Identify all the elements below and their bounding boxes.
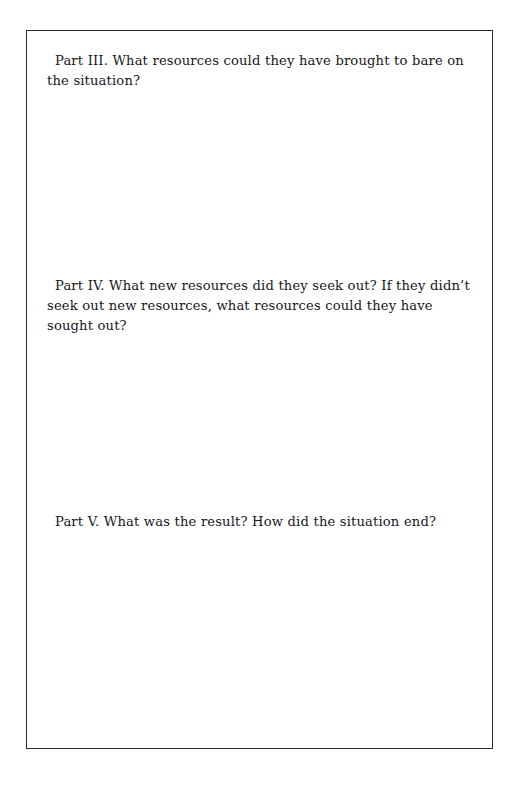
question-part-iv: Part IV. What new resources did they see… [47, 276, 473, 336]
question-part-iii: Part III. What resources could they have… [47, 51, 473, 91]
question-part-v: Part V. What was the result? How did the… [47, 512, 473, 532]
page-frame: Part III. What resources could they have… [26, 30, 493, 749]
